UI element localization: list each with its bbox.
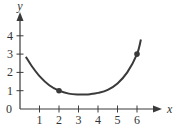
axes [17, 12, 163, 113]
axis-ticks [17, 36, 138, 113]
x-tick-label: 2 [56, 113, 62, 127]
x-tick-label: 1 [37, 113, 43, 127]
y-tick-label: 4 [7, 29, 13, 43]
x-axis-arrow-icon [153, 106, 162, 113]
y-axis-arrow-icon [17, 12, 24, 21]
y-tick-label: 1 [7, 84, 13, 98]
y-axis-label: y [16, 0, 23, 13]
data-point [134, 51, 140, 57]
x-tick-label: 3 [76, 113, 82, 127]
data-curve [26, 39, 141, 94]
tick-labels: 12345601234 [6, 29, 140, 127]
chart: 12345601234 x y [0, 0, 177, 131]
x-tick-label: 4 [95, 113, 101, 127]
y-tick-label: 0 [6, 102, 12, 116]
y-tick-label: 2 [7, 65, 13, 79]
x-tick-label: 6 [134, 113, 140, 127]
data-point [56, 88, 62, 94]
x-axis-label: x [166, 102, 173, 116]
x-tick-label: 5 [115, 113, 121, 127]
y-tick-label: 3 [7, 47, 13, 61]
